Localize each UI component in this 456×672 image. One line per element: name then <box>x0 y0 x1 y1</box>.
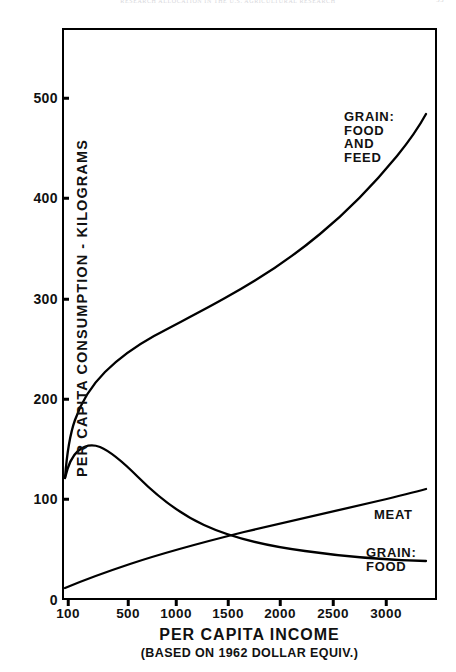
y-tick-mark-200 <box>62 398 69 401</box>
figure-page: RESEARCH ALLOCATION IN THE U.S. AGRICULT… <box>0 0 456 672</box>
x-tick-mark-2000 <box>279 598 282 606</box>
y-axis-title: PER CAPITA CONSUMPTION - KILOGRAMS <box>74 98 90 518</box>
y-tick-label-300: 300 <box>14 291 58 307</box>
y-tick-label-400: 400 <box>14 190 58 206</box>
curve-grain-food-and-feed <box>65 114 426 478</box>
x-tick-mark-3000 <box>385 598 388 606</box>
x-tick-label-100: 100 <box>56 606 80 621</box>
x-tick-label-2000: 2000 <box>264 606 296 621</box>
x-tick-mark-1500 <box>227 598 230 606</box>
x-tick-mark-100 <box>67 598 70 606</box>
x-axis-subtitle: (BASED ON 1962 DOLLAR EQUIV.) <box>62 646 437 660</box>
x-axis-title: PER CAPITA INCOME <box>62 626 437 644</box>
series-label-grain-food: GRAIN: FOOD <box>366 546 416 573</box>
x-tick-mark-500 <box>127 598 130 606</box>
x-tick-label-3000: 3000 <box>370 606 402 621</box>
x-tick-label-1000: 1000 <box>160 606 192 621</box>
series-label-grain-food-and-feed: GRAIN: FOOD AND FEED <box>344 110 394 164</box>
series-label-meat: MEAT <box>374 508 413 522</box>
y-tick-label-500: 500 <box>14 90 58 106</box>
x-tick-mark-1000 <box>175 598 178 606</box>
y-tick-mark-400 <box>62 197 69 200</box>
x-tick-label-1500: 1500 <box>212 606 244 621</box>
x-tick-label-2500: 2500 <box>317 606 349 621</box>
x-tick-label-500: 500 <box>116 606 140 621</box>
y-axis-ticks: 0 100 200 300 400 500 <box>0 0 58 672</box>
y-tick-label-100: 100 <box>14 491 58 507</box>
y-tick-label-200: 200 <box>14 391 58 407</box>
y-tick-mark-100 <box>62 498 69 501</box>
y-tick-mark-300 <box>62 298 69 301</box>
x-tick-mark-2500 <box>332 598 335 606</box>
y-tick-label-0: 0 <box>14 592 58 608</box>
chart-figure: PER CAPITA CONSUMPTION - KILOGRAMS 0 100… <box>0 0 456 672</box>
y-tick-mark-500 <box>62 97 69 100</box>
